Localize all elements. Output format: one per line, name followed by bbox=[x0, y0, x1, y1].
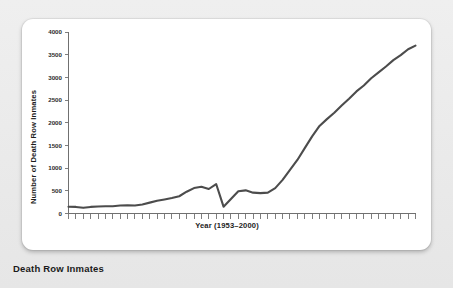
y-tick-label: 3000 bbox=[48, 74, 62, 81]
x-axis-ticks bbox=[69, 214, 416, 219]
figure-card: Number of Death Row Inmates 050010001500… bbox=[22, 19, 431, 250]
x-axis-title: Year (1953–2000) bbox=[195, 221, 259, 230]
y-axis-title: Number of Death Row Inmates bbox=[29, 90, 38, 204]
y-tick-label: 2000 bbox=[48, 119, 62, 126]
y-tick-label: 1000 bbox=[48, 164, 62, 171]
data-series-line bbox=[69, 46, 416, 208]
plot-area: Number of Death Row Inmates 050010001500… bbox=[22, 19, 431, 250]
y-tick-label: 500 bbox=[52, 187, 63, 194]
death-row-inmates-line-chart: Number of Death Row Inmates 050010001500… bbox=[22, 19, 431, 250]
y-tick-label: 4000 bbox=[48, 28, 62, 35]
y-tick-label: 2500 bbox=[48, 96, 62, 103]
page-background: Number of Death Row Inmates 050010001500… bbox=[0, 0, 453, 288]
y-tick-labels: 05001000150020002500300035004000 bbox=[48, 28, 62, 217]
figure-caption: Death Row Inmates bbox=[13, 263, 104, 274]
y-tick-label: 0 bbox=[59, 210, 63, 217]
y-axis-ticks bbox=[65, 32, 69, 214]
y-tick-label: 1500 bbox=[48, 142, 62, 149]
y-tick-label: 3500 bbox=[48, 51, 62, 58]
